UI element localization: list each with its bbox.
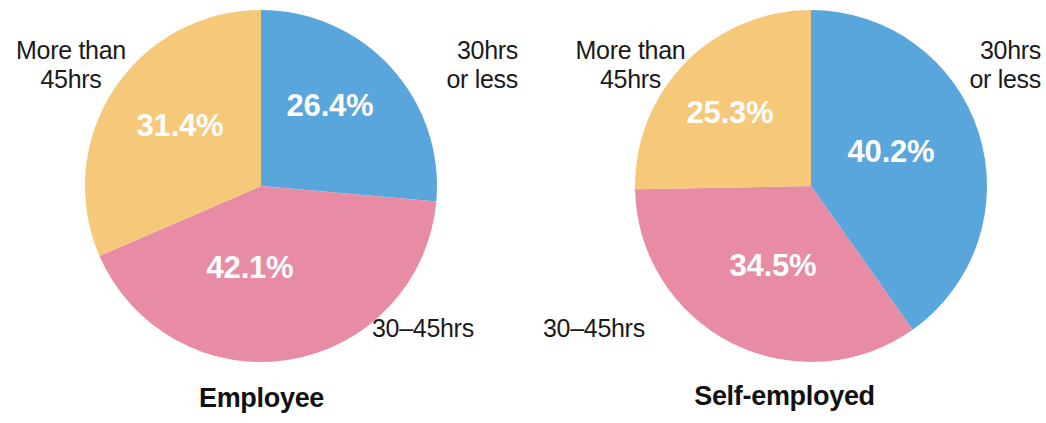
chart-panel-self-employed: 40.2%34.5%25.3% More than45hrs 30hrsor l… [523,0,1046,423]
slice-label-line1: 30–45hrs [543,314,645,342]
slice-label-30hrs-or-less-employee: 30hrsor less [386,36,518,94]
pie-slice-value-employee-1: 42.1% [207,250,294,285]
slice-label-line2: 45hrs [600,65,661,93]
pie-slice-value-self-employed-2: 25.3% [687,95,774,130]
slice-label-30-45hrs-self-employed: 30–45hrs [543,314,683,343]
chart-panel-employee: 26.4%42.1%31.4% More than45hrs 30hrsor l… [0,0,523,423]
pie-slices-employee [85,10,437,362]
pie-chart-figure: 26.4%42.1%31.4% More than45hrs 30hrsor l… [0,0,1046,423]
pie-slice-value-self-employed-1: 34.5% [730,248,817,283]
slice-label-line1: 30hrs [980,36,1041,64]
slice-label-30-45hrs-employee: 30–45hrs [372,314,502,343]
pie-slice-value-employee-0: 26.4% [287,88,374,123]
slice-label-line1: 30–45hrs [372,314,474,342]
slice-label-line2: 45hrs [40,65,101,93]
slice-label-line1: 30hrs [457,36,518,64]
pie-slice-value-employee-2: 31.4% [137,108,224,143]
slice-label-more-than-45hrs-employee: More than45hrs [6,36,136,94]
slice-label-30hrs-or-less-self-employed: 30hrsor less [918,36,1041,94]
chart-title-self-employed: Self-employed [523,381,1046,412]
slice-label-line1: More than [576,36,686,64]
slice-label-more-than-45hrs-self-employed: More than45hrs [563,36,698,94]
slice-label-line1: More than [16,36,126,64]
slice-label-line2: or less [969,65,1041,93]
chart-title-employee: Employee [0,383,523,414]
slice-label-line2: or less [446,65,518,93]
pie-slice-value-self-employed-0: 40.2% [848,134,935,169]
